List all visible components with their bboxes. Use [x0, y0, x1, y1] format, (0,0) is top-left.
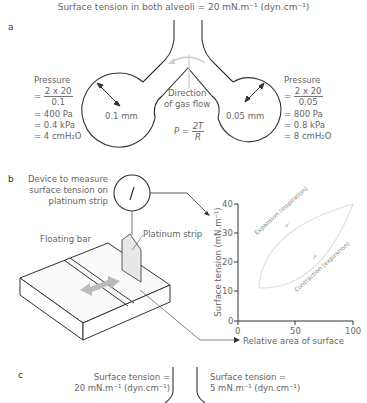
panel-a-label: a [8, 22, 14, 32]
xtick-0: 0 [235, 326, 240, 336]
left-denominator: 0.1 [44, 97, 73, 107]
left-radius-label: 0.1 mm [105, 111, 138, 121]
platinum-strip-label: Platinum strip [143, 229, 202, 239]
right-pressure-cmh2o: = 8 cmH₂O [284, 131, 331, 141]
floating-bar-label: Floating bar [40, 234, 91, 244]
panel-c-left-line2: 20 mN.m⁻¹ (dyn.cm⁻¹) [60, 383, 170, 393]
formula-lhs: P = [174, 126, 189, 136]
left-pressure-fraction: = 2 x 200.1 [34, 86, 73, 107]
ytick-20: 20 [222, 257, 233, 267]
formula-numerator: 2T [192, 121, 205, 132]
xtick-100: 100 [345, 326, 361, 336]
ytick-40: 40 [222, 199, 233, 209]
left-pressure-kpa: = 0.4 kPa [34, 120, 75, 130]
right-radius-label: 0.05 mm [226, 111, 264, 121]
panel-c-right-line2: 5 mN.m⁻¹ (dyn.cm⁻¹) [210, 383, 300, 393]
device-label-1: Device to measure [22, 174, 108, 184]
title-surface-tension: Surface tension in both alveoli = 20 mN.… [0, 2, 367, 12]
flow-label-line1: Direction [168, 88, 206, 98]
left-numerator: 2 x 20 [44, 86, 73, 97]
right-denominator: 0.05 [294, 97, 323, 107]
ytick-10: 10 [222, 286, 233, 296]
right-numerator: 2 x 20 [294, 86, 323, 97]
device-label-3: platinum strip [22, 196, 108, 206]
right-pressure-pa: = 800 Pa [284, 109, 323, 119]
ytick-0: 0 [228, 316, 233, 326]
x-axis-label: Relative area of surface [243, 336, 344, 346]
panel-b-label: b [8, 174, 14, 184]
right-pressure-kpa: = 0.8 kPa [284, 120, 325, 130]
flow-label-line2: of gas flow [164, 99, 210, 109]
laplace-formula: P = 2TR [174, 121, 204, 142]
left-pressure-heading: Pressure [34, 75, 70, 85]
formula-denominator: R [192, 132, 205, 142]
y-axis-label: Surface tension (mN.m⁻¹) [213, 202, 223, 322]
ytick-30: 30 [222, 228, 233, 238]
left-pressure-pa: = 400 Pa [34, 109, 73, 119]
panel-c-right-line1: Surface tension = [210, 372, 286, 382]
right-pressure-fraction: = 2 x 200.05 [284, 86, 323, 107]
panel-c-left-line1: Surface tension = [60, 372, 170, 382]
panel-c-label: c [18, 370, 23, 380]
xtick-50: 50 [290, 326, 301, 336]
right-pressure-heading: Pressure [284, 75, 320, 85]
left-pressure-cmh2o: = 4 cmH₂O [34, 131, 81, 141]
device-label-2: surface tension on [22, 185, 108, 195]
